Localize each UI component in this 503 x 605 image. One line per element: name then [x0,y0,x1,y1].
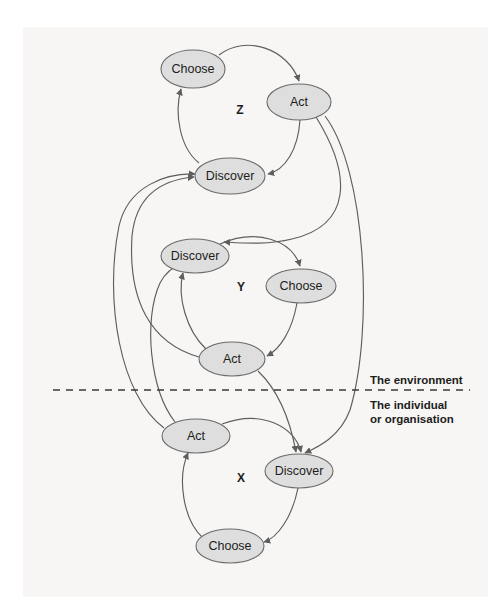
edge-x-discover-to-x-choose [264,488,298,542]
node-label: Choose [279,279,322,293]
node-z-choose[interactable]: Choose [161,50,225,88]
node-z-act[interactable]: Act [267,84,331,120]
zone-label-individual-line2: or organisation [370,413,454,425]
cluster-label-z: Z [236,103,243,117]
cluster-label-x: X [237,471,245,485]
zone-label-individual-line1: The individual [370,399,447,411]
edge-z-discover-to-z-choose [178,89,199,163]
edge-x-choose-to-x-act [183,453,203,538]
edge-y-act-to-x-discover [258,371,296,452]
cluster-label-y: Y [237,280,245,294]
diagram-page: Choose Act Discover Discover Choose Act … [0,0,503,605]
edge-y-discover-to-y-choose [220,237,300,266]
edge-z-choose-to-z-act [219,45,299,81]
edge-y-act-to-y-discover [181,273,206,349]
zone-label-environment: The environment [370,374,463,386]
node-y-choose[interactable]: Choose [266,269,336,303]
node-label: Choose [208,539,251,553]
node-label: Act [187,429,206,443]
node-y-act[interactable]: Act [199,342,265,376]
node-y-discover[interactable]: Discover [161,239,229,273]
node-x-choose[interactable]: Choose [196,529,264,563]
node-x-act[interactable]: Act [162,419,230,453]
cycles-diagram: Choose Act Discover Discover Choose Act … [0,0,503,605]
node-label: Discover [275,464,324,478]
node-label: Act [223,352,242,366]
node-label: Choose [171,62,214,76]
node-label: Discover [206,169,255,183]
edges-cross-cluster-from-y-act [132,177,296,452]
node-label: Discover [171,249,220,263]
node-z-discover[interactable]: Discover [195,158,265,194]
node-x-discover[interactable]: Discover [265,454,333,488]
edges-cross-cluster-from-x-act [114,174,195,428]
edge-y-choose-to-y-act [267,303,297,356]
edge-x-act-to-y-discover [151,263,183,422]
edge-z-act-to-z-discover [268,120,300,174]
node-label: Act [290,95,309,109]
